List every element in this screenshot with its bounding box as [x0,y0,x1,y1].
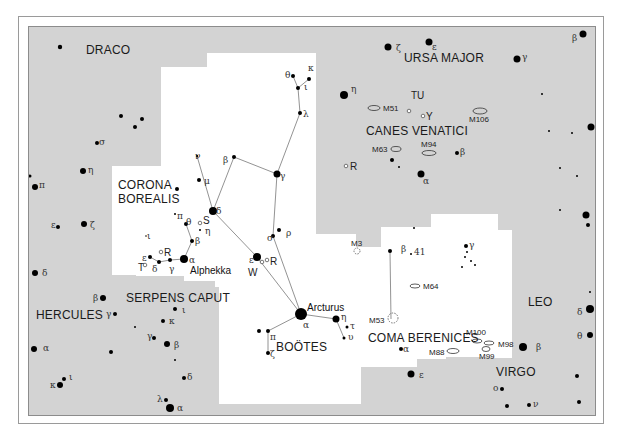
greek-label: π [39,180,45,190]
svg-text:M99: M99 [479,352,495,361]
greek-label: β [572,33,577,43]
greek-label: ι [304,82,308,92]
greek-label: π [270,332,276,342]
greek-label: γ [147,331,152,341]
greek-label: γ [522,52,527,62]
greek-label: υ [348,332,354,342]
greek-label: γ [169,264,174,274]
greek-label: ε [419,370,424,380]
svg-text:R: R [350,161,357,172]
svg-text:T: T [138,262,144,273]
svg-text:M51: M51 [383,104,399,113]
greek-label: β [223,155,228,165]
greek-label: τ [350,321,355,331]
label-ursa-major: URSA MAJOR [404,51,484,65]
svg-text:M106: M106 [469,115,490,124]
greek-label: α [43,343,49,353]
greek-label: η [351,84,356,94]
svg-text:TU: TU [411,90,424,101]
greek-label: η [341,312,346,322]
label-serpens-caput: SERPENS CAPUT [126,291,230,305]
greek-label: β [401,244,406,254]
greek-label: δ [152,264,157,274]
label-bootes: BOÖTES [276,340,327,354]
svg-text:S: S [203,215,210,226]
svg-text:M100: M100 [466,328,487,337]
greek-label: γ [469,240,474,250]
greek-label: η [88,165,93,175]
greek-label: δ [42,268,47,278]
greek-label: θ [186,217,191,227]
greek-label: β [174,340,179,350]
greek-label: ε [432,42,437,52]
greek-label: δ [216,206,221,216]
greek-label: α [177,403,183,413]
greek-label: ι [69,372,73,382]
greek-label: α [189,255,195,265]
svg-text:M88: M88 [429,348,445,357]
greek-label: ζ [396,43,401,53]
greek-label: κ [169,316,175,326]
label-corona-borealis-2: BOREALIS [118,192,180,206]
svg-text:M94: M94 [421,140,437,149]
star-map: DRACO URSA MAJOR CANES VENATICI CORONA B… [28,26,596,416]
svg-text:M98: M98 [498,340,514,349]
label-canes-venatici: CANES VENATICI [366,124,468,138]
greek-label: ν [195,151,200,161]
greek-label: ο [493,383,498,393]
greek-label: 41 [414,247,425,257]
svg-text:R: R [164,247,171,258]
label-arcturus: Arcturus [307,302,344,313]
greek-label: κ [50,380,56,390]
greek-label: β [536,342,541,352]
greek-label: ι [182,305,186,315]
label-coma-berenices: COMA BERENICES [368,331,479,345]
greek-label: μ [204,176,210,186]
greek-label: ζ [90,220,95,230]
svg-text:Y: Y [426,111,433,122]
greek-label: ν [533,399,538,409]
greek-label: ι [147,231,151,241]
greek-label: β [460,147,465,157]
svg-text:R: R [270,256,277,267]
greek-label: ε [142,253,147,263]
greek-label: ε [51,220,56,230]
svg-text:M53: M53 [369,316,385,325]
label-hercules: HERCULES [36,308,103,322]
greek-label: λ [157,394,163,404]
star-map-canvas: DRACO URSA MAJOR CANES VENATICI CORONA B… [29,27,596,416]
greek-label: α [423,176,429,186]
svg-text:M63: M63 [372,145,388,154]
greek-label: γ [106,309,111,319]
greek-label: η [205,226,210,236]
greek-label: π [177,211,183,221]
greek-label: β [195,236,200,246]
greek-label: λ [303,109,309,119]
greek-label: σ [99,137,105,147]
greek-label: β [93,293,98,303]
greek-label: θ [285,70,290,80]
greek-label: ζ [270,349,275,359]
label-leo: LEO [528,295,553,309]
greek-label: δ [577,307,582,317]
greek-label: κ [308,63,314,73]
svg-text:W: W [248,267,258,278]
label-alphekka: Alphekka [190,265,232,276]
greek-label: α [403,344,409,354]
svg-text:M3: M3 [351,239,363,248]
svg-text:M64: M64 [423,282,439,291]
label-virgo: VIRGO [496,365,536,379]
greek-label: α [303,320,309,330]
greek-label: γ [280,171,285,181]
greek-label: σ [267,233,273,243]
greek-label: δ [187,372,192,382]
greek-label: ρ [286,228,291,238]
greek-label: θ [577,331,582,341]
label-draco: DRACO [86,43,130,57]
greek-label: ε [249,255,254,265]
label-corona-borealis-1: CORONA [118,178,172,192]
